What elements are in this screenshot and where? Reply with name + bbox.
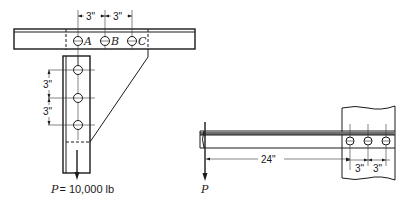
left-view: 3" 3" A B C: [14, 10, 195, 196]
bolts-abc: A B C: [73, 35, 147, 48]
lever-arm-dimension: 24": [206, 152, 350, 165]
bolt-label-b: B: [110, 35, 119, 48]
dim-bc: 3": [113, 11, 123, 22]
bolt-label-a: A: [83, 35, 92, 48]
load-label-right: P: [200, 183, 209, 196]
bracket-connection-diagram: 3" 3" A B C: [0, 0, 407, 205]
dim-vert-1: 3": [43, 79, 53, 90]
dim-24: 24": [261, 154, 276, 165]
dim-bolt-1: 3": [355, 163, 365, 174]
load-arrow-left: [75, 150, 80, 180]
right-view: 24" 3" 3" P: [200, 106, 395, 196]
gusset: [90, 50, 148, 142]
bolt-label-c: C: [138, 35, 147, 48]
dim-vert-2: 3": [43, 106, 53, 117]
vertical-dimension: 3" 3": [42, 70, 56, 125]
dim-bolt-2: 3": [373, 163, 383, 174]
dim-ab: 3": [86, 11, 96, 22]
vertical-bolts: [48, 56, 95, 140]
load-label-left: P= 10,000 lb: [50, 183, 114, 196]
